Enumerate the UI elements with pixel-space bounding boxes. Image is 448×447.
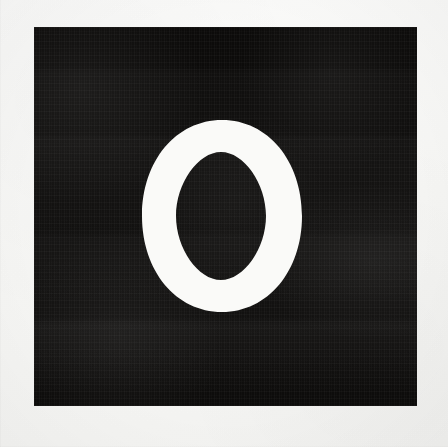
image-canvas: Capital letter O	[0, 0, 448, 447]
glyph-layer: Capital letter O	[0, 0, 448, 447]
letter-o-glyph: Capital letter O	[0, 0, 448, 447]
letter-o-path	[142, 120, 302, 312]
